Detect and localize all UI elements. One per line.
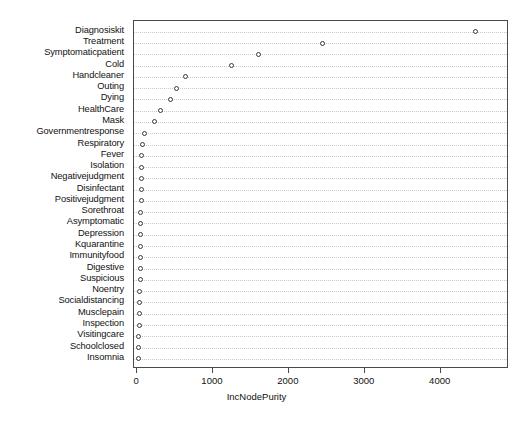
- y-axis-label: Digestive: [87, 263, 124, 272]
- data-point: [139, 187, 144, 192]
- y-axis-label: Depression: [78, 229, 124, 238]
- gridline: [134, 54, 507, 55]
- gridline: [134, 280, 507, 281]
- data-point: [138, 232, 143, 237]
- data-point: [136, 356, 141, 361]
- gridline: [134, 336, 507, 337]
- x-axis-tick-label: 4000: [429, 375, 450, 386]
- gridline: [134, 122, 507, 123]
- data-point: [138, 244, 143, 249]
- data-point: [137, 300, 142, 305]
- x-axis-title-label: IncNodePurity: [227, 391, 287, 402]
- gridline: [134, 133, 507, 134]
- x-axis-title: IncNodePurity: [0, 391, 529, 402]
- data-point: [142, 131, 147, 136]
- y-axis-label: Cold: [105, 60, 124, 69]
- y-axis-label: Schoolclosed: [70, 342, 124, 351]
- y-axis-label: Dying: [101, 94, 124, 103]
- data-point: [138, 266, 143, 271]
- gridline: [134, 291, 507, 292]
- y-axis-label: HealthCare: [78, 105, 124, 114]
- gridline: [134, 66, 507, 67]
- gridline: [134, 99, 507, 100]
- gridline: [134, 212, 507, 213]
- x-axis-tick-label: 1000: [201, 375, 222, 386]
- y-axis-label: Diagnosiskit: [75, 26, 124, 35]
- gridline: [134, 88, 507, 89]
- y-axis-label: Musclepain: [78, 308, 124, 317]
- data-point: [229, 63, 234, 68]
- data-point: [137, 311, 142, 316]
- data-point: [320, 41, 325, 46]
- y-axis-label: Isolation: [90, 161, 124, 170]
- data-point: [138, 210, 143, 215]
- gridline: [134, 269, 507, 270]
- y-axis-label: Handcleaner: [72, 71, 124, 80]
- y-axis-label: Negativejudgment: [51, 173, 124, 182]
- y-axis-label: Insomnia: [87, 353, 124, 362]
- data-point: [183, 74, 188, 79]
- x-axis-tick: [364, 368, 365, 373]
- y-axis-label: Mask: [102, 116, 124, 125]
- data-point: [139, 153, 144, 158]
- data-point: [136, 345, 141, 350]
- gridline: [134, 257, 507, 258]
- gridline: [134, 302, 507, 303]
- y-axis-label: Asymptomatic: [67, 218, 124, 227]
- data-point: [174, 86, 179, 91]
- gridline: [134, 246, 507, 247]
- x-axis-tick-label: 3000: [353, 375, 374, 386]
- data-point: [140, 142, 145, 147]
- x-axis-tick: [288, 368, 289, 373]
- y-axis-label: Visitingcare: [77, 331, 124, 340]
- gridline: [134, 348, 507, 349]
- gridline: [134, 235, 507, 236]
- y-axis-label: Symptomaticpatient: [44, 49, 124, 58]
- data-point: [256, 52, 261, 57]
- gridline: [134, 77, 507, 78]
- y-axis-label: Immunityfood: [69, 252, 124, 261]
- y-axis-label: Governmentresponse: [36, 128, 124, 137]
- x-axis-tick: [440, 368, 441, 373]
- gridline: [134, 178, 507, 179]
- gridline: [134, 201, 507, 202]
- data-point: [138, 277, 143, 282]
- gridline: [134, 359, 507, 360]
- gridline: [134, 32, 507, 33]
- y-axis-label: Noentry: [92, 286, 124, 295]
- data-point: [138, 221, 143, 226]
- data-point: [139, 165, 144, 170]
- data-point: [137, 289, 142, 294]
- x-axis-tick-label: 2000: [277, 375, 298, 386]
- data-point: [152, 119, 157, 124]
- data-point: [139, 176, 144, 181]
- gridline: [134, 223, 507, 224]
- gridline: [134, 156, 507, 157]
- data-point: [136, 334, 141, 339]
- gridline: [134, 325, 507, 326]
- y-axis-label: Treatment: [83, 37, 124, 46]
- y-axis-category-labels: DiagnosiskitTreatmentSymptomaticpatientC…: [0, 20, 128, 368]
- x-axis-tick-label: 0: [133, 375, 138, 386]
- gridline: [134, 167, 507, 168]
- gridline: [134, 314, 507, 315]
- y-axis-label: Kquarantine: [75, 240, 124, 249]
- y-axis-label: Socialdistancing: [58, 297, 124, 306]
- y-axis-label: Inspection: [83, 319, 124, 328]
- variable-importance-dotchart: DiagnosiskitTreatmentSymptomaticpatientC…: [0, 0, 529, 423]
- y-axis-label: Positivejudgment: [55, 195, 124, 204]
- gridline: [134, 111, 507, 112]
- x-axis-tick: [212, 368, 213, 373]
- y-axis-label: Fever: [101, 150, 124, 159]
- data-point: [158, 108, 163, 113]
- gridline: [134, 145, 507, 146]
- y-axis-label: Respiratory: [78, 139, 124, 148]
- y-axis-label: Suspicious: [80, 274, 124, 283]
- data-point: [168, 97, 173, 102]
- plot-panel: [133, 20, 508, 368]
- y-axis-label: Outing: [97, 82, 124, 91]
- gridline: [134, 190, 507, 191]
- data-point: [137, 323, 142, 328]
- y-axis-label: Disinfectant: [77, 184, 124, 193]
- y-axis-label: Sorethroat: [82, 207, 124, 216]
